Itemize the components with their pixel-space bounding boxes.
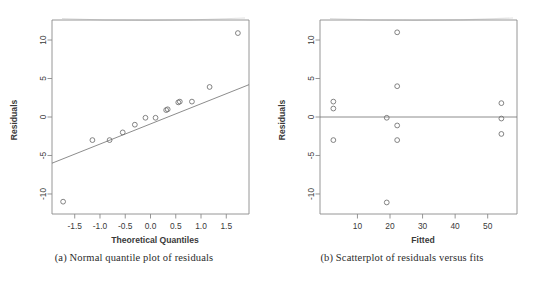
y-axis-title-b: Residuals: [277, 99, 287, 140]
x-axis-ticks-a: -1.5-1.0-0.50.00.51.01.5: [68, 214, 233, 231]
y-tick-label: -5: [306, 151, 316, 159]
plot-area-a: -1.5-1.0-0.50.00.51.01.5 -10-50510 Theor…: [0, 0, 268, 252]
x-axis-title-b: Fitted: [411, 235, 434, 245]
x-tick-label: 10: [353, 221, 363, 231]
y-tick-label: 0: [38, 114, 48, 119]
x-tick-label: -1.0: [93, 221, 108, 231]
y-tick-label: 0: [306, 114, 316, 119]
caption-panel-b: (b) Scatterplot of residuals versus fits: [268, 252, 536, 263]
data-point-marker: [177, 99, 182, 104]
data-point-marker: [395, 123, 400, 128]
x-tick-label: 0.5: [170, 221, 182, 231]
y-axis-ticks-a: -10-50510: [38, 35, 52, 200]
data-point-marker: [132, 122, 137, 127]
data-point-marker: [384, 115, 389, 120]
x-tick-label: 50: [483, 221, 493, 231]
plot-frame-box: [52, 20, 249, 214]
data-point-marker: [190, 99, 195, 104]
data-point-marker: [207, 85, 212, 90]
data-point-marker: [499, 101, 504, 106]
y-tick-label: 5: [306, 76, 316, 81]
y-tick-label: -5: [38, 151, 48, 159]
data-point-marker: [331, 106, 336, 111]
x-tick-label: -1.5: [68, 221, 83, 231]
x-tick-label: 30: [418, 221, 428, 231]
x-axis-title-a: Theoretical Quantiles: [111, 235, 199, 245]
data-point-marker: [395, 30, 400, 35]
qq-line: [52, 85, 249, 164]
data-point-marker: [61, 199, 66, 204]
data-point-marker: [331, 138, 336, 143]
data-point-marker: [165, 107, 170, 112]
x-tick-label: 0.0: [145, 221, 157, 231]
data-point-marker: [499, 132, 504, 137]
x-tick-label: -0.5: [118, 221, 133, 231]
data-point-marker: [120, 130, 125, 135]
x-tick-label: 20: [385, 221, 395, 231]
data-point-marker: [235, 31, 240, 36]
data-point-marker: [90, 138, 95, 143]
caption-panel-a: (a) Normal quantile plot of residuals: [0, 252, 268, 263]
data-point-marker: [395, 138, 400, 143]
y-tick-label: 10: [38, 35, 48, 45]
y-axis-ticks-b: -10-50510: [306, 35, 320, 200]
normal-quantile-plot-svg: -1.5-1.0-0.50.00.51.01.5 -10-50510 Theor…: [0, 0, 268, 252]
data-point-marker: [143, 115, 148, 120]
plot-frame-a: [52, 20, 249, 214]
panel-normal-quantile-plot: -1.5-1.0-0.50.00.51.01.5 -10-50510 Theor…: [0, 0, 268, 291]
residuals-vs-fits-plot-svg: 1020304050 -10-50510 Fitted Residuals: [268, 0, 536, 252]
data-point-marker: [331, 99, 336, 104]
data-point-marker: [395, 84, 400, 89]
x-tick-label: 1.0: [195, 221, 207, 231]
plot-area-b: 1020304050 -10-50510 Fitted Residuals: [268, 0, 536, 252]
data-point-marker: [153, 115, 158, 120]
x-tick-label: 1.5: [220, 221, 232, 231]
qq-reference-line: [52, 85, 249, 164]
x-tick-label: 40: [450, 221, 460, 231]
y-tick-label: 5: [38, 76, 48, 81]
figure-row: -1.5-1.0-0.50.00.51.01.5 -10-50510 Theor…: [0, 0, 536, 291]
y-tick-label: -10: [38, 188, 48, 200]
y-tick-label: 10: [306, 35, 316, 45]
x-axis-ticks-b: 1020304050: [353, 214, 493, 231]
y-axis-title-a: Residuals: [9, 99, 19, 140]
data-point-marker: [384, 200, 389, 205]
y-tick-label: -10: [306, 188, 316, 200]
panel-residuals-versus-fits: 1020304050 -10-50510 Fitted Residuals (b…: [268, 0, 536, 291]
data-points-a: [61, 31, 241, 204]
